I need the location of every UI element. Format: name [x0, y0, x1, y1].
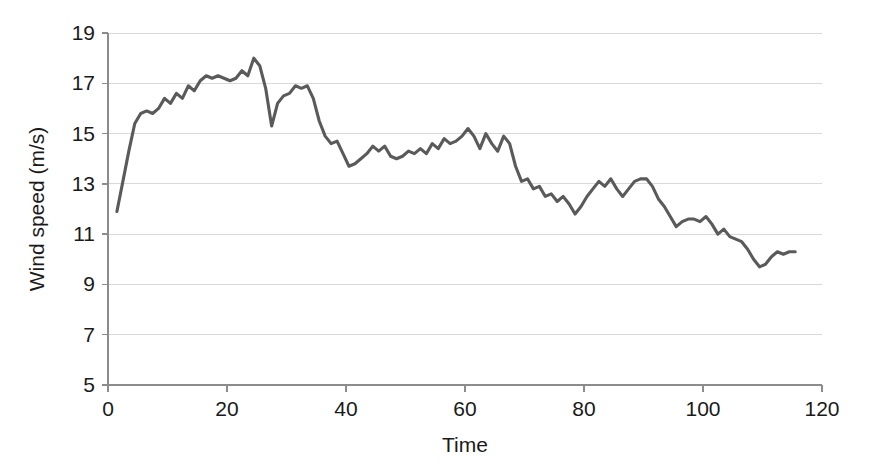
x-tick-label: 20: [215, 397, 238, 420]
x-tick-label: 120: [804, 397, 839, 420]
y-tick-label: 5: [83, 373, 95, 396]
x-tick-label: 80: [572, 397, 595, 420]
y-tick-label: 13: [72, 172, 95, 195]
y-axis-title: Wind speed (m/s): [25, 127, 48, 292]
x-tick-label: 100: [685, 397, 720, 420]
chart-background: [0, 0, 871, 472]
x-tick-label: 40: [334, 397, 357, 420]
x-axis-title: Time: [442, 433, 488, 456]
y-tick-label: 11: [73, 222, 95, 245]
x-tick-label: 0: [102, 397, 114, 420]
y-tick-label: 7: [83, 323, 95, 346]
chart-canvas: 5791113151719 020406080100120 Time Wind …: [0, 0, 871, 472]
wind-speed-line-chart: 5791113151719 020406080100120 Time Wind …: [0, 0, 871, 472]
y-tick-label: 9: [83, 272, 95, 295]
y-tick-label: 19: [72, 21, 95, 44]
x-tick-label: 60: [453, 397, 476, 420]
y-tick-label: 15: [72, 122, 95, 145]
y-tick-label: 17: [72, 71, 95, 94]
